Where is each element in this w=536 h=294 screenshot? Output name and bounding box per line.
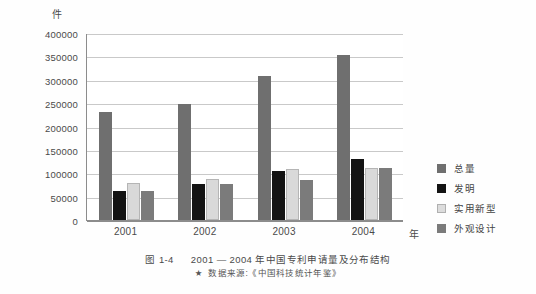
legend-item-0: 总量 <box>437 158 532 178</box>
bar-2004-series-2 <box>365 168 378 220</box>
figure-caption-text: 2001 — 2004 年中国专利申请量及分布结构 <box>191 254 391 265</box>
legend-item-3: 外观设计 <box>437 218 532 238</box>
y-axis-tick: 300000 <box>0 75 82 86</box>
bar-2003-series-1 <box>272 171 285 220</box>
bar-groups <box>87 34 403 220</box>
bar-2002-series-1 <box>192 184 205 220</box>
bar-2001-series-2 <box>127 183 140 220</box>
y-axis-tick: 400000 <box>0 29 82 40</box>
bar-group-2003 <box>258 34 313 220</box>
bar-2002-series-0 <box>178 104 191 220</box>
bar-group-2001 <box>99 34 154 220</box>
figure-caption: 图 1-4 2001 — 2004 年中国专利申请量及分布结构 <box>0 252 536 266</box>
y-axis-tick: 250000 <box>0 99 82 110</box>
y-axis-tick: 150000 <box>0 145 82 156</box>
y-axis-tick: 100000 <box>0 169 82 180</box>
bar-2004-series-3 <box>379 168 392 220</box>
legend-swatch-icon <box>437 164 446 173</box>
y-axis-unit-label: 件 <box>52 6 63 21</box>
bar-2003-series-0 <box>258 76 271 220</box>
star-icon: ★ <box>195 268 203 278</box>
plot-area <box>86 34 403 221</box>
legend-item-1: 发明 <box>437 178 532 198</box>
bar-2001-series-3 <box>141 191 154 220</box>
y-axis-tick: 0 <box>0 216 82 227</box>
y-axis-tick: 50000 <box>0 192 82 203</box>
x-axis-tick-2001: 2001 <box>96 226 156 237</box>
bar-2001-series-0 <box>99 112 112 220</box>
data-source-note: ★ 数据来源:《中国科技统计年鉴》 <box>0 266 536 278</box>
bar-2001-series-1 <box>113 191 126 220</box>
legend-label: 发明 <box>454 181 475 195</box>
bar-group-2004 <box>337 34 392 220</box>
data-source-text: 数据来源:《中国科技统计年鉴》 <box>208 268 341 278</box>
legend-label: 外观设计 <box>454 221 496 235</box>
figure-number: 图 1-4 <box>145 254 173 265</box>
x-axis-tick-2002: 2002 <box>175 226 235 237</box>
y-axis-tick: 200000 <box>0 122 82 133</box>
legend-label: 实用新型 <box>454 201 496 215</box>
bar-2004-series-1 <box>351 159 364 220</box>
bar-2004-series-0 <box>337 55 350 220</box>
bar-2003-series-3 <box>300 180 313 220</box>
bar-group-2002 <box>178 34 233 220</box>
legend-swatch-icon <box>437 184 446 193</box>
bar-2003-series-2 <box>286 169 299 220</box>
y-axis-tick: 350000 <box>0 52 82 63</box>
figure-container: 件 05000010000015000020000025000030000035… <box>0 0 536 294</box>
legend-item-2: 实用新型 <box>437 198 532 218</box>
x-axis-tick-2004: 2004 <box>333 226 393 237</box>
x-axis-tick-2003: 2003 <box>254 226 314 237</box>
chart-legend: 总量发明实用新型外观设计 <box>437 158 532 238</box>
x-axis-unit-label: 年 <box>409 226 419 241</box>
bar-2002-series-2 <box>206 179 219 220</box>
legend-swatch-icon <box>437 224 446 233</box>
gridline <box>87 221 403 222</box>
bar-2002-series-3 <box>220 184 233 220</box>
legend-swatch-icon <box>437 204 446 213</box>
legend-label: 总量 <box>454 161 475 175</box>
